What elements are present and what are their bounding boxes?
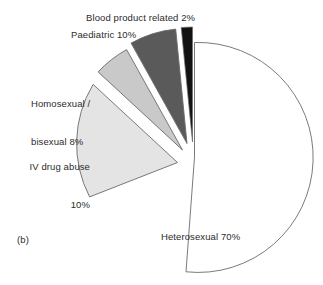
slice-label-iv-drug-abuse-line2: 10% (11, 199, 90, 212)
figure-caption: (b) (17, 234, 29, 247)
slice-label-blood-product-related: Blood product related 2% (86, 12, 195, 25)
pie-chart-figure: Blood product related 2% Paediatric 10% … (0, 0, 323, 285)
pie-slice-iv-drug-abuse-group (77, 84, 178, 196)
slice-label-paediatric: Paediatric 10% (71, 29, 136, 42)
slice-label-homosexual-bisexual-line1: Homosexual / (31, 98, 90, 111)
slice-label-heterosexual: Heterosexual 70% (161, 231, 240, 244)
slice-label-iv-drug-abuse-line1: IV drug abuse (11, 161, 90, 174)
pie-slice-iv-drug-abuse (77, 84, 178, 196)
slice-label-iv-drug-abuse: IV drug abuse 10% (11, 136, 90, 236)
